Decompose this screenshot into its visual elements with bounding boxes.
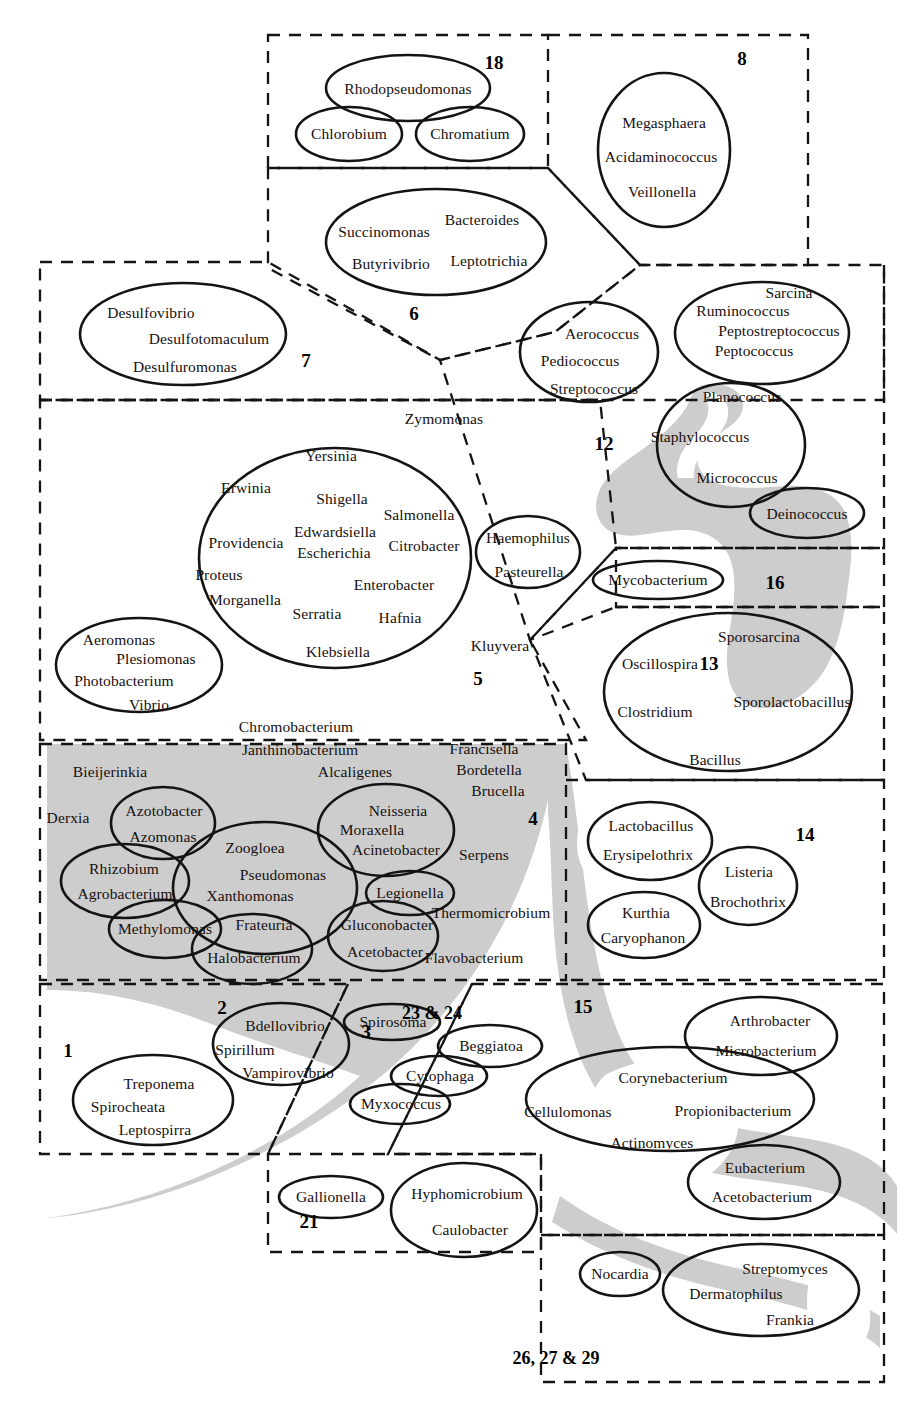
genus-label: Caulobacter: [432, 1222, 508, 1238]
genus-label: Edwardsiella: [294, 524, 376, 540]
genus-label: Photobacterium: [74, 673, 174, 689]
free-genus-label: Chromobacterium: [239, 719, 353, 735]
genus-label: Sporolactobacillus: [733, 694, 850, 710]
genus-label: Azomonas: [129, 829, 196, 845]
genus-label: Arthrobacter: [730, 1013, 810, 1029]
genus-label: Citrobacter: [389, 538, 460, 554]
genus-label: Halobacterium: [207, 950, 300, 966]
group-number-2: 2: [217, 998, 227, 1017]
genus-label: Vibrio: [129, 697, 169, 713]
genus-label: Deinococcus: [766, 506, 847, 522]
genus-label: Planococcus: [703, 389, 782, 405]
genus-label: Kurthia: [622, 905, 670, 921]
genus-label: Bacteroides: [445, 212, 519, 228]
gray-shading-carveout-14: [577, 787, 716, 902]
genus-label: Caryophanon: [601, 930, 686, 946]
genus-label: Rhodopseudomonas: [344, 81, 471, 97]
free-genus-label: Alcaligenes: [318, 764, 392, 780]
genus-label: Pediococcus: [541, 353, 620, 369]
genus-label: Staphylococcus: [651, 429, 750, 445]
group-number-5: 5: [473, 669, 483, 688]
genus-label: Oscillospira: [622, 656, 698, 672]
free-genus-label: Francisella: [449, 741, 518, 757]
genus-label: Corynebacterium: [618, 1070, 727, 1086]
genus-label: Acinetobacter: [352, 842, 440, 858]
group-number-4: 4: [528, 809, 538, 828]
e-hyphomicrobium[interactable]: [391, 1163, 537, 1257]
genus-label: Actinomyces: [611, 1135, 694, 1151]
genus-label: Agrobacterium: [77, 886, 172, 902]
group-number-21: 21: [300, 1212, 319, 1231]
genus-label: Enterobacter: [354, 577, 434, 593]
genus-label: Sarcina: [765, 285, 812, 301]
genus-label: Bdellovibrio: [245, 1018, 325, 1034]
genus-label: Neisseria: [369, 803, 428, 819]
genus-label: Xanthomonas: [206, 888, 293, 904]
genus-label: Micrococcus: [696, 470, 777, 486]
genus-label: Klebsiella: [306, 644, 370, 660]
genus-label: Veillonella: [628, 184, 696, 200]
genus-label: Myxococcus: [361, 1096, 441, 1112]
genus-label: Salmonella: [384, 507, 455, 523]
genus-label: Leptospirra: [119, 1122, 192, 1138]
free-genus-label: Thermomicrobium: [432, 905, 551, 921]
diagram-canvas: RhodopseudomonasChlorobiumChromatiumMega…: [0, 0, 916, 1416]
genus-label: Azotobacter: [126, 803, 203, 819]
genus-label: Dermatophilus: [689, 1286, 782, 1302]
genus-label: Shigella: [316, 491, 368, 507]
genus-label: Moraxella: [340, 822, 405, 838]
free-genus-label: Kluyvera: [471, 638, 529, 654]
genus-label: Eubacterium: [725, 1160, 805, 1176]
genus-label: Hyphomicrobium: [411, 1186, 523, 1202]
genus-label: Propionibacterium: [674, 1103, 791, 1119]
genus-label: Listeria: [725, 864, 773, 880]
genus-label: Cellulomonas: [524, 1104, 611, 1120]
genus-label: Ruminococcus: [696, 303, 789, 319]
genus-label: Streptomyces: [742, 1261, 828, 1277]
group-number-12: 12: [595, 434, 614, 453]
genus-label: Clostridium: [617, 704, 692, 720]
group-number-6: 6: [409, 304, 419, 323]
genus-label: Sporosarcina: [718, 629, 800, 645]
genus-label: Chromatium: [430, 126, 509, 142]
free-genus-label: Derxia: [47, 810, 90, 826]
e-arthrobacter[interactable]: [685, 997, 837, 1075]
genus-label: Acidaminococcus: [605, 149, 718, 165]
genus-label: Yersinia: [305, 448, 357, 464]
free-genus-label: Bordetella: [456, 762, 522, 778]
genus-label: Zoogloea: [225, 840, 284, 856]
e-listeria[interactable]: [699, 847, 797, 925]
genus-label: Streptococcus: [550, 381, 638, 397]
genus-label: Desulfovibrio: [107, 305, 194, 321]
genus-label: Serratia: [293, 606, 342, 622]
genus-label: Peptostreptococcus: [718, 323, 839, 339]
group-number-26-27-29: 26, 27 & 29: [513, 1349, 600, 1367]
group-number-23-24: 23 & 24: [402, 1004, 462, 1022]
group-number-7: 7: [301, 351, 311, 370]
free-genus-label: Brucella: [471, 783, 524, 799]
genus-label: Erysipelothrix: [603, 847, 693, 863]
group-number-16: 16: [766, 573, 785, 592]
genus-label: Brochothrix: [710, 894, 786, 910]
group-number-14: 14: [796, 825, 815, 844]
genus-label: Microbacterium: [715, 1043, 816, 1059]
genus-label: Nocardia: [591, 1266, 649, 1282]
genus-label: Bacillus: [689, 752, 741, 768]
genus-label: Gluconobacter: [341, 917, 434, 933]
genus-label: Hafnia: [379, 610, 422, 626]
free-genus-label: Zymomonas: [405, 411, 483, 427]
group-number-18: 18: [485, 53, 504, 72]
genus-label: Spirillum: [215, 1042, 274, 1058]
free-genus-label: Bieijerinkia: [73, 764, 147, 780]
genus-label: Aeromonas: [83, 632, 155, 648]
genus-label: Pasteurella: [494, 564, 563, 580]
genus-label: Desulfotomaculum: [149, 331, 269, 347]
free-genus-label: Serpens: [459, 847, 509, 863]
genus-label: Treponema: [124, 1076, 195, 1092]
e-bacteroides[interactable]: [326, 189, 546, 295]
genus-label: Megasphaera: [622, 115, 706, 131]
genus-label: Acetobacterium: [712, 1189, 812, 1205]
genus-label: Desulfuromonas: [133, 359, 237, 375]
genus-label: Chlorobium: [311, 126, 387, 142]
genus-label: Rhizobium: [89, 861, 159, 877]
